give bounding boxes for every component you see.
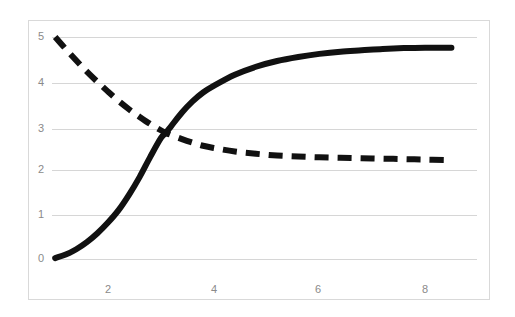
chart-figure: 012345 2468 — [0, 0, 515, 317]
y-tick-label-0: 0 — [26, 253, 44, 264]
x-tick-label-4: 4 — [203, 284, 225, 295]
y-tick-label-5: 5 — [26, 31, 44, 42]
y-tick-label-3: 3 — [26, 123, 44, 134]
y-tick-label-2: 2 — [26, 164, 44, 175]
x-tick-label-8: 8 — [414, 284, 436, 295]
x-tick-label-2: 2 — [97, 284, 119, 295]
y-tick-label-1: 1 — [26, 209, 44, 220]
y-tick-label-4: 4 — [26, 77, 44, 88]
chart-plot-frame — [28, 20, 490, 300]
x-tick-label-6: 6 — [307, 284, 329, 295]
